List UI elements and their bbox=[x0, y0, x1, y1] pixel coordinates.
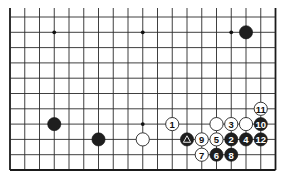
stone-disc bbox=[92, 133, 105, 146]
move-number: 2 bbox=[229, 134, 234, 145]
move-number: 7 bbox=[199, 150, 204, 161]
stone-disc bbox=[180, 133, 193, 146]
move-number: 12 bbox=[255, 134, 266, 145]
move-number: 8 bbox=[229, 150, 234, 161]
star-point bbox=[52, 30, 56, 34]
move-number: 10 bbox=[255, 119, 266, 130]
black-stone bbox=[239, 26, 252, 39]
black-stone bbox=[92, 133, 105, 146]
white-stone-move-3: 3 bbox=[225, 118, 238, 131]
move-number: 5 bbox=[214, 134, 220, 145]
star-point bbox=[141, 30, 145, 34]
stone-disc bbox=[136, 133, 149, 146]
move-number: 11 bbox=[256, 104, 267, 115]
go-board: 123456789101112 bbox=[0, 0, 285, 179]
white-stone-move-9: 9 bbox=[195, 133, 208, 146]
move-number: 1 bbox=[170, 119, 176, 130]
move-number: 3 bbox=[229, 119, 234, 130]
star-point bbox=[229, 30, 233, 34]
black-stone-move-10: 10 bbox=[254, 118, 267, 131]
white-stone-move-11: 11 bbox=[254, 102, 267, 115]
stone-disc bbox=[239, 26, 252, 39]
move-number: 4 bbox=[243, 134, 249, 145]
black-stone bbox=[180, 133, 193, 146]
black-stone-move-12: 12 bbox=[254, 133, 267, 146]
stone-disc bbox=[210, 118, 223, 131]
stone-disc bbox=[239, 118, 252, 131]
move-number: 6 bbox=[214, 150, 219, 161]
white-stone-move-1: 1 bbox=[166, 118, 179, 131]
black-stone-move-8: 8 bbox=[225, 148, 238, 161]
white-stone-move-7: 7 bbox=[195, 148, 208, 161]
black-stone-move-4: 4 bbox=[239, 133, 252, 146]
black-stone-move-2: 2 bbox=[225, 133, 238, 146]
white-stone bbox=[136, 133, 149, 146]
white-stone bbox=[239, 118, 252, 131]
black-stone bbox=[48, 118, 61, 131]
move-number: 9 bbox=[199, 134, 204, 145]
stone-disc bbox=[48, 118, 61, 131]
star-point bbox=[141, 122, 145, 126]
white-stone bbox=[210, 118, 223, 131]
white-stone-move-5: 5 bbox=[210, 133, 223, 146]
black-stone-move-6: 6 bbox=[210, 148, 223, 161]
